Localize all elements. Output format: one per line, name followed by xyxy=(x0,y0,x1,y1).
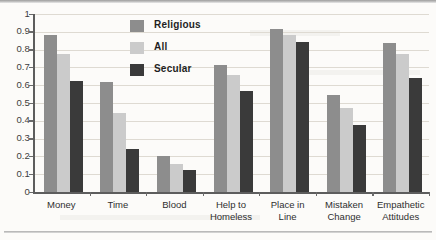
bar-secular-mistaken-change xyxy=(353,125,366,192)
bar-group xyxy=(44,14,83,192)
bar-secular-empathetic-attitudes xyxy=(409,78,422,192)
y-tick-label: 0.3 xyxy=(4,133,30,143)
bar-all-empathetic-attitudes xyxy=(396,54,409,192)
bar-religious-money xyxy=(44,35,57,192)
legend-swatch-icon xyxy=(130,42,144,54)
bar-religious-blood xyxy=(157,156,170,193)
legend-swatch-icon xyxy=(130,64,144,76)
bar-religious-time xyxy=(100,82,113,192)
y-tick-label: 0.1 xyxy=(4,169,30,179)
legend-label: Religious xyxy=(154,19,201,30)
bar-secular-place-in-line xyxy=(296,42,309,192)
bar-religious-place-in-line xyxy=(270,29,283,192)
legend-label: Secular xyxy=(154,63,192,74)
x-tick-mark xyxy=(90,192,91,196)
chart-figure: 10.90.80.70.60.50.40.30.20.10 MoneyTimeB… xyxy=(0,0,436,240)
bar-all-mistaken-change xyxy=(340,108,353,193)
x-tick-mark xyxy=(316,192,317,196)
x-tick-mark xyxy=(259,192,260,196)
y-tick-label: 0.8 xyxy=(4,44,30,54)
x-tick-mark xyxy=(146,192,147,196)
scan-artifact-top-line xyxy=(0,0,436,3)
y-tick-label: 0.2 xyxy=(4,151,30,161)
bar-secular-help-to-homeless xyxy=(240,91,253,192)
legend-item-secular: Secular xyxy=(130,62,250,82)
bar-secular-money xyxy=(70,81,83,192)
legend-item-religious: Religious xyxy=(130,18,250,38)
legend-label: All xyxy=(154,41,167,52)
x-axis-line xyxy=(33,192,430,194)
bar-all-place-in-line xyxy=(283,35,296,193)
bar-secular-blood xyxy=(183,170,196,192)
bar-group xyxy=(327,14,366,192)
bar-all-blood xyxy=(170,164,183,192)
bar-all-help-to-homeless xyxy=(227,75,240,193)
scan-artifact-bottom-line xyxy=(4,231,432,233)
x-tick-label-line: Attitudes xyxy=(358,211,436,223)
x-tick-mark xyxy=(429,192,430,196)
x-tick-mark xyxy=(372,192,373,196)
bar-religious-mistaken-change xyxy=(327,95,340,192)
y-axis-labels: 10.90.80.70.60.50.40.30.20.10 xyxy=(0,0,30,200)
y-tick-label: 0.5 xyxy=(4,98,30,108)
bar-religious-empathetic-attitudes xyxy=(383,43,396,193)
y-tick-label: 0.4 xyxy=(4,115,30,125)
legend-item-all: All xyxy=(130,40,250,60)
bar-all-time xyxy=(113,113,126,192)
bar-secular-time xyxy=(126,149,139,192)
legend-swatch-icon xyxy=(130,20,144,32)
x-tick-label: EmpatheticAttitudes xyxy=(358,199,436,222)
y-tick-label: 0 xyxy=(4,187,30,197)
chart-legend: ReligiousAllSecular xyxy=(130,18,250,84)
y-tick-label: 0.7 xyxy=(4,62,30,72)
bar-group xyxy=(383,14,422,192)
x-tick-mark xyxy=(203,192,204,196)
y-tick-label: 0.9 xyxy=(4,26,30,36)
y-tick-label: 0.6 xyxy=(4,80,30,90)
x-tick-label-line: Empathetic xyxy=(358,199,436,211)
bar-group xyxy=(270,14,309,192)
bar-all-money xyxy=(57,54,70,192)
y-tick-label: 1 xyxy=(4,9,30,19)
